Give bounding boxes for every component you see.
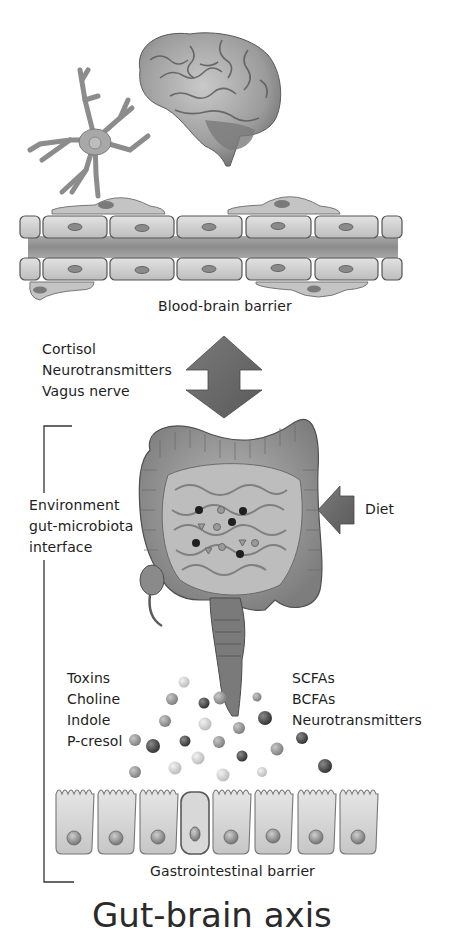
signal-cortisol: Cortisol: [42, 339, 172, 360]
metabolite-choline: Choline: [67, 689, 123, 710]
diet-arrow-icon: [318, 486, 354, 534]
brain-illustration: [139, 33, 280, 166]
metabolite-scfas: SCFAs: [292, 668, 422, 689]
bidirectional-arrow-icon: [186, 336, 262, 418]
signal-vagus-nerve: Vagus nerve: [42, 381, 172, 402]
gastrointestinal-epithelium: [56, 790, 378, 854]
environment-interface-label: Environment gut-microbiota interface: [29, 495, 133, 558]
blood-brain-barrier-caption: Blood-brain barrier: [158, 296, 292, 317]
blood-vessel-endothelium: [20, 197, 402, 300]
metabolites-right-list: SCFAs BCFAs Neurotransmitters: [292, 668, 422, 731]
metabolite-indole: Indole: [67, 710, 123, 731]
metabolite-toxins: Toxins: [67, 668, 123, 689]
diet-label: Diet: [365, 499, 394, 520]
label-line: interface: [29, 537, 133, 558]
label-line: gut-microbiota: [29, 516, 133, 537]
gastrointestinal-barrier-caption: Gastrointestinal barrier: [150, 861, 315, 882]
signal-neurotransmitters: Neurotransmitters: [42, 360, 172, 381]
signals-list: Cortisol Neurotransmitters Vagus nerve: [42, 339, 172, 402]
metabolite-bcfas: BCFAs: [292, 689, 422, 710]
metabolites-left-list: Toxins Choline Indole P-cresol: [67, 668, 123, 752]
astrocyte-body: [79, 129, 111, 155]
cropped-figure-title: Gut-brain axis: [92, 895, 332, 931]
metabolite-neurotransmitters: Neurotransmitters: [292, 710, 422, 731]
metabolite-p-cresol: P-cresol: [67, 731, 123, 752]
label-line: Environment: [29, 495, 133, 516]
